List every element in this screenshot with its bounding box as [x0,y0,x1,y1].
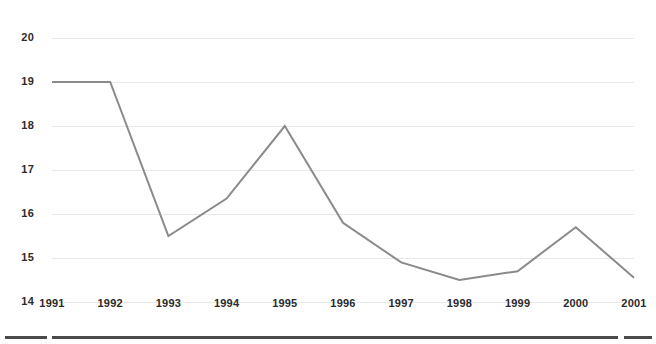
footer-rule-main [52,336,618,339]
line-chart: 14151617181920 1991199219931994199519961… [0,0,656,344]
x-tick-label-2000: 2000 [552,297,600,309]
data-line-group [52,82,634,280]
y-tick-label-15: 15 [0,251,34,263]
y-tick-label-20: 20 [0,31,34,43]
x-tick-label-2001: 2001 [610,297,656,309]
data-series-line [52,82,634,280]
x-tick-label-1992: 1992 [86,297,134,309]
y-tick-label-18: 18 [0,119,34,131]
x-tick-label-1994: 1994 [203,297,251,309]
y-tick-label-19: 19 [0,75,34,87]
x-tick-label-1998: 1998 [435,297,483,309]
y-tick-label-16: 16 [0,207,34,219]
x-tick-label-1996: 1996 [319,297,367,309]
y-tick-label-17: 17 [0,163,34,175]
footer-rule-left [5,336,47,339]
footer-rule-right [624,336,652,339]
x-tick-label-1997: 1997 [377,297,425,309]
x-tick-label-1991: 1991 [28,297,76,309]
x-tick-label-1993: 1993 [144,297,192,309]
x-tick-label-1999: 1999 [494,297,542,309]
chart-plot-area [0,0,656,344]
x-tick-label-1995: 1995 [261,297,309,309]
gridline-group [52,39,634,303]
